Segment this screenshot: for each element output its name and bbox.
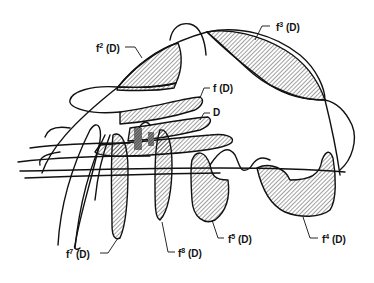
label-f7: f7 (D)	[66, 248, 90, 260]
label-D: D	[213, 108, 220, 118]
label-f8: f8 (D)	[178, 247, 202, 259]
region-f7	[111, 134, 128, 239]
region-f4	[257, 152, 335, 216]
label-f4: f4 (D)	[322, 233, 346, 245]
iterated-map-diagram	[0, 0, 374, 283]
region-f8	[155, 130, 172, 220]
region-f2	[118, 43, 181, 87]
label-f5: f5 (D)	[228, 233, 252, 245]
label-f: f (D)	[213, 84, 233, 94]
region-f5	[191, 153, 229, 222]
dense-overlap	[134, 128, 142, 150]
label-f3: f3 (D)	[276, 21, 300, 33]
label-f2: f2 (D)	[96, 42, 120, 54]
